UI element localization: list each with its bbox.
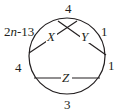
arc-label-left: 4 (15, 60, 22, 75)
arc-label-bottom: 3 (64, 97, 71, 112)
circle-chord-diagram: XYZ 42n-131413 (0, 0, 116, 112)
arc-label-upper-right: 1 (101, 24, 108, 39)
arc-label-upper-left: 2n-13 (4, 24, 34, 39)
arc-label-right: 1 (108, 58, 115, 73)
chord-label-z: Z (62, 70, 70, 85)
chord-label-x: X (46, 29, 56, 44)
arc-label-top: 4 (65, 1, 72, 16)
